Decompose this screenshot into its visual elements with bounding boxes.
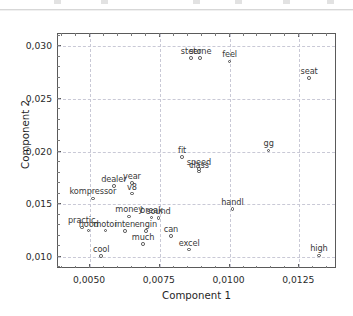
data-point-label: class <box>189 161 209 170</box>
data-point-label: v8 <box>127 183 137 192</box>
y-tick-minor <box>57 266 60 267</box>
x-tick-minor <box>298 266 299 269</box>
data-point[interactable] <box>130 192 134 196</box>
data-point-label: much <box>132 233 154 242</box>
y-tick-minor <box>57 140 60 141</box>
x-tick-minor-top <box>61 33 62 36</box>
x-tick-minor <box>159 266 160 269</box>
x-tick-label: 0,0050 <box>73 274 105 285</box>
data-point[interactable] <box>197 170 201 174</box>
x-tick-label: 0,0125 <box>282 274 314 285</box>
x-tick-minor <box>256 266 257 269</box>
y-tick-minor <box>57 119 60 120</box>
y-tick-minor <box>57 182 60 183</box>
x-tick-minor-top <box>256 33 257 36</box>
x-tick-minor-top <box>75 33 76 36</box>
y-tick-minor <box>57 108 60 109</box>
x-tick-minor-top <box>117 33 118 36</box>
x-tick-minor-top <box>243 33 244 36</box>
chrome-tick <box>54 0 61 4</box>
gridline-vertical <box>230 34 231 267</box>
data-point[interactable] <box>99 254 103 258</box>
data-point[interactable] <box>169 234 173 238</box>
scatter-plot-figure: steerstonefeelseatggfitspeedclassyeardea… <box>0 11 353 316</box>
data-point-label: kompressor <box>69 187 116 196</box>
gridline-horizontal <box>58 204 335 205</box>
data-point-label: inten <box>115 220 135 229</box>
data-point-label: fit <box>178 146 186 155</box>
y-tick-minor <box>57 172 60 173</box>
y-tick-minor <box>57 56 60 57</box>
chart-window: steerstonefeelseatggfitspeedclassyeardea… <box>0 0 353 316</box>
gridline-vertical <box>160 34 161 267</box>
y-tick-minor <box>57 256 60 257</box>
chrome-tick <box>283 0 290 4</box>
x-tick-minor <box>326 266 327 269</box>
plot-area: steerstonefeelseatggfitspeedclassyeardea… <box>57 33 336 268</box>
x-tick-minor <box>145 266 146 269</box>
x-tick-minor <box>89 266 90 269</box>
data-point-label: feel <box>222 50 237 59</box>
x-tick-minor-top <box>298 33 299 36</box>
data-point-label: can <box>164 225 178 234</box>
chrome-tick <box>235 0 242 4</box>
x-tick-minor-top <box>173 33 174 36</box>
x-tick-minor-top <box>229 33 230 36</box>
y-tick-label: 0,030 <box>6 40 52 51</box>
data-point[interactable] <box>189 56 193 60</box>
x-tick-minor <box>270 266 271 269</box>
data-point[interactable] <box>180 155 184 159</box>
x-tick-minor <box>187 266 188 269</box>
data-point[interactable] <box>157 216 161 220</box>
data-point[interactable] <box>198 56 202 60</box>
x-tick-minor <box>117 266 118 269</box>
data-point-label: engin <box>135 220 157 229</box>
data-point-label: handl <box>221 198 243 207</box>
x-tick-minor-top <box>215 33 216 36</box>
x-tick-minor <box>173 266 174 269</box>
y-tick-minor <box>57 87 60 88</box>
gridline-horizontal <box>58 99 335 100</box>
x-tick-minor <box>103 266 104 269</box>
data-point[interactable] <box>127 215 131 219</box>
data-point[interactable] <box>317 254 321 258</box>
gridline-vertical <box>90 34 91 267</box>
x-tick-minor-top <box>312 33 313 36</box>
y-tick-minor <box>57 98 60 99</box>
x-tick-minor-top <box>270 33 271 36</box>
data-point[interactable] <box>228 60 232 64</box>
data-point[interactable] <box>307 76 311 80</box>
y-tick-minor <box>57 193 60 194</box>
x-tick-minor <box>229 266 230 269</box>
window-chrome-strip <box>0 0 353 11</box>
y-tick-minor <box>57 245 60 246</box>
data-point[interactable] <box>104 229 108 233</box>
data-point-label: seat <box>301 67 318 76</box>
data-point[interactable] <box>91 197 95 201</box>
y-tick-minor <box>57 77 60 78</box>
data-point-label: money <box>115 205 143 214</box>
x-tick-minor-top <box>284 33 285 36</box>
data-point[interactable] <box>141 242 145 246</box>
data-point-label: cool <box>93 245 109 254</box>
y-tick-minor <box>57 151 60 152</box>
x-tick-minor <box>201 266 202 269</box>
x-tick-minor <box>75 266 76 269</box>
data-point[interactable] <box>187 248 191 252</box>
x-tick-minor-top <box>89 33 90 36</box>
x-tick-minor-top <box>131 33 132 36</box>
data-point[interactable] <box>123 229 127 233</box>
y-tick-minor <box>57 129 60 130</box>
y-tick-minor <box>57 35 60 36</box>
x-tick-minor-top <box>103 33 104 36</box>
y-axis-label: Component 2 <box>20 65 31 205</box>
x-tick-minor <box>312 266 313 269</box>
y-tick-minor <box>57 235 60 236</box>
data-point[interactable] <box>231 207 235 211</box>
y-tick-minor <box>57 203 60 204</box>
x-tick-minor-top <box>201 33 202 36</box>
chrome-tick <box>327 0 334 4</box>
x-tick-minor <box>61 266 62 269</box>
x-axis-label: Component 1 <box>57 290 336 301</box>
x-tick-minor <box>284 266 285 269</box>
